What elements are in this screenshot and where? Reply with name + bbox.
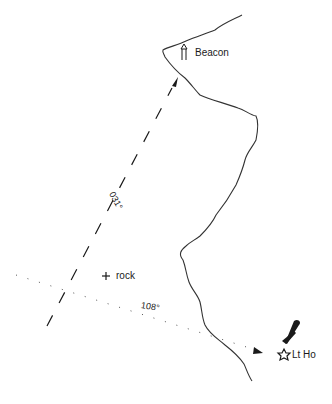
bearing-line-031 bbox=[47, 88, 172, 326]
rock-label: rock bbox=[116, 270, 135, 281]
beacon-arrow-head bbox=[172, 77, 178, 87]
beacon-label: Beacon bbox=[195, 47, 229, 58]
beacon-icon bbox=[181, 44, 187, 60]
coastline bbox=[163, 15, 258, 381]
bearing-line-108 bbox=[16, 275, 256, 350]
navigation-diagram: Beacon rock Lt Ho 031° 108° bbox=[0, 0, 332, 404]
cross-mark-icon bbox=[102, 272, 110, 280]
lighthouse-arrow-head bbox=[253, 347, 263, 354]
chart-drawing bbox=[0, 0, 332, 404]
lighthouse-label: Lt Ho bbox=[292, 349, 316, 360]
